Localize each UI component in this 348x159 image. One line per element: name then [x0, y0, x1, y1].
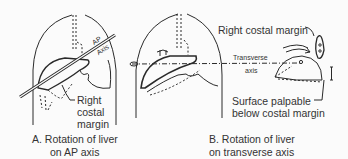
surface-palpable-label-2: below costal margin: [232, 107, 325, 119]
caption-b-line1: B. Rotation of liver: [209, 133, 295, 146]
caption-a-line2: on AP axis: [50, 146, 99, 159]
side-view-liver: [275, 45, 322, 82]
right-costal-margin-label-b: Right costal margin: [218, 24, 308, 36]
surface-palpable-label-1: Surface palpable: [232, 95, 311, 107]
caption-a-line1: A. Rotation of liver: [32, 133, 118, 146]
panel-b-liver: [141, 50, 218, 95]
transverse-axis-label: axis: [245, 67, 257, 74]
palpable-bracket: [330, 67, 333, 80]
caption-b-line2: on transverse axis: [209, 146, 294, 159]
right-costal-margin-label-a2: costal: [77, 106, 104, 118]
panel-b-torso: [136, 14, 222, 118]
transverse-label: Transverse: [233, 54, 268, 61]
right-costal-margin-label-a3: margin: [77, 118, 109, 130]
right-costal-margin-label-a1: Right: [77, 94, 102, 106]
